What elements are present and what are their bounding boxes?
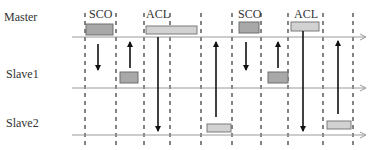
acl-packet-slave2 [327,121,351,129]
sco-packet-master [86,24,113,35]
arrow-down-icon [243,65,249,71]
acl-packet-slave2 [207,124,231,132]
acl-packet-master [146,26,197,34]
acl-packet-master [291,22,319,31]
arrow-down-icon [300,126,306,132]
arrow-down-icon [155,126,161,132]
arrow-down-icon [95,65,101,71]
sco-packet-slave1 [120,72,138,83]
arrow-up-icon [335,40,341,46]
piconet-timing-diagram [0,0,385,150]
arrow-up-icon [127,41,133,47]
packets [86,22,351,132]
sco-packet-master [239,22,259,33]
arrow-up-icon [213,41,219,47]
sco-packet-slave1 [268,72,288,83]
arrow-up-icon [275,41,281,47]
